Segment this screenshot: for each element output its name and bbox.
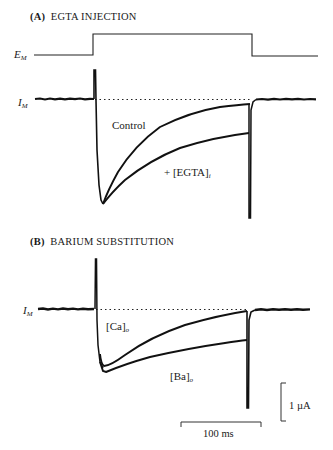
baseline-b-left bbox=[38, 309, 94, 310]
baseline-a-right bbox=[256, 99, 316, 100]
scale-bar-current bbox=[281, 383, 286, 421]
on-spike-b bbox=[95, 259, 103, 368]
off-spike-b bbox=[247, 310, 255, 408]
on-spike-a bbox=[94, 70, 103, 204]
scale-bar-time bbox=[181, 422, 261, 427]
baseline-a-left bbox=[35, 99, 94, 100]
egta-trace bbox=[103, 133, 249, 204]
off-spike-a bbox=[249, 100, 256, 219]
voltage-step-trace bbox=[34, 34, 318, 56]
traces-canvas bbox=[0, 0, 333, 450]
control-trace bbox=[103, 104, 250, 204]
ca-trace bbox=[100, 311, 247, 366]
baseline-b-right bbox=[255, 309, 310, 310]
